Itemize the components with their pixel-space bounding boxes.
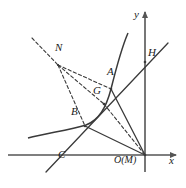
point-label-C: C: [58, 149, 65, 160]
point-label-B: B: [71, 106, 78, 117]
point-label-G: G: [93, 85, 101, 96]
segment-G-to-O: [104, 104, 145, 155]
origin-label: O(M): [114, 155, 136, 165]
point-marker-B: [84, 125, 87, 128]
point-label-A: A: [107, 66, 114, 77]
point-marker-O: [144, 154, 147, 157]
point-label-N: N: [55, 42, 62, 53]
point-marker-G: [103, 103, 106, 106]
dashed-lines-group: [32, 38, 145, 155]
segment-B-to-O: [85, 126, 145, 155]
geometry-figure: N A H G B C O(M) x y: [0, 0, 186, 188]
y-axis-label: y: [134, 9, 139, 20]
point-marker-A: [110, 88, 113, 91]
point-marker-H: [144, 61, 147, 64]
x-axis-label: x: [169, 155, 174, 166]
segment-N-to-A: [58, 65, 111, 89]
point-label-H: H: [148, 47, 156, 58]
point-marker-N: [57, 64, 59, 66]
hyperbola-curve: [28, 33, 128, 138]
segment-A-to-O: [111, 89, 145, 155]
